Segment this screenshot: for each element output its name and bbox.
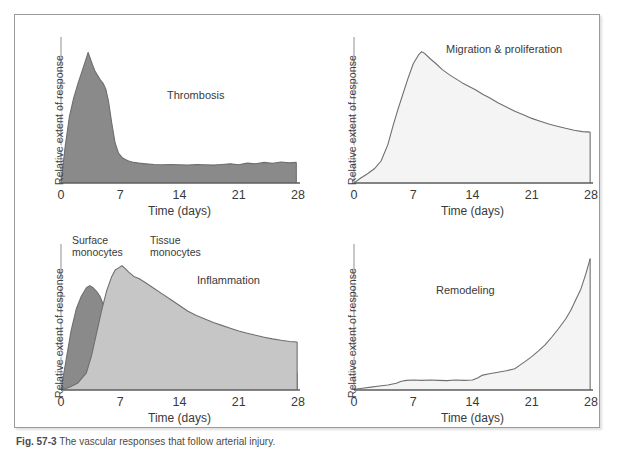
panel-title-inflammation: Inflammation (197, 274, 260, 286)
x-axis-label: Time (days) (148, 411, 211, 425)
x-tick-label: 14 (466, 188, 480, 202)
x-tick-label: 28 (291, 395, 305, 409)
x-tick-label: 28 (584, 395, 598, 409)
x-tick-label: 14 (466, 395, 480, 409)
x-tick-label: 0 (58, 188, 65, 202)
panel-remodeling: Relative extent of response 07142128Time… (308, 222, 601, 429)
x-tick-label: 21 (525, 188, 539, 202)
x-tick-label: 7 (117, 188, 124, 202)
figure-number: Fig. 57-3 (16, 436, 57, 447)
figure-caption-text: The vascular responses that follow arter… (59, 436, 275, 447)
panel-title-remodeling: Remodeling (436, 284, 495, 296)
figure-caption: Fig. 57-3 The vascular responses that fo… (16, 436, 275, 449)
x-tick-label: 7 (117, 395, 124, 409)
x-tick-label: 21 (232, 188, 246, 202)
y-axis-label-remodeling: Relative extent of response (346, 268, 358, 398)
figure-frame: Relative extent of response 07142128Time… (14, 14, 600, 428)
x-tick-label: 0 (351, 188, 358, 202)
series-label-tissue-monocytes: Tissuemonocytes (150, 235, 201, 258)
x-tick-label: 28 (291, 188, 305, 202)
x-tick-label: 14 (173, 395, 187, 409)
panel-thrombosis: Relative extent of response 07142128Time… (15, 15, 308, 222)
x-tick-label: 7 (410, 188, 417, 202)
x-axis-label: Time (days) (441, 411, 504, 425)
x-tick-label: 28 (584, 188, 598, 202)
x-tick-label: 21 (525, 395, 539, 409)
panel-inflammation: Relative extent of response 07142128Time… (15, 222, 308, 429)
y-axis-label-inflammation: Relative extent of response (53, 268, 65, 398)
y-axis-label-migration: Relative extent of response (346, 55, 358, 185)
panel-migration: Relative extent of response 07142128Time… (308, 15, 601, 222)
y-axis-label-thrombosis: Relative extent of response (53, 55, 65, 185)
series-label-surface-monocytes: Surfacemonocytes (72, 235, 123, 258)
x-tick-label: 7 (410, 395, 417, 409)
x-axis-label: Time (days) (441, 204, 504, 218)
x-tick-label: 14 (173, 188, 187, 202)
panel-title-thrombosis: Thrombosis (167, 89, 224, 101)
panel-title-migration: Migration & proliferation (446, 43, 562, 55)
x-axis-label: Time (days) (148, 204, 211, 218)
x-tick-label: 21 (232, 395, 246, 409)
